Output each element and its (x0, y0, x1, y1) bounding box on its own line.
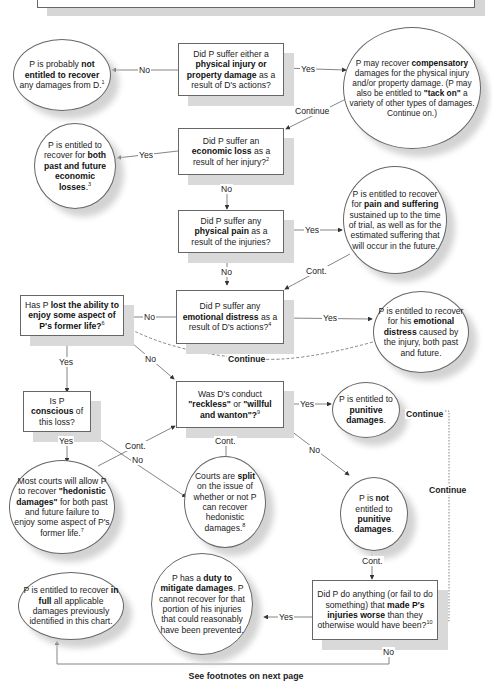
edge-label-q5-no: No (144, 354, 157, 364)
edge-label-q7-no: No (308, 445, 321, 455)
edge-label-q4-yes: Yes (322, 313, 338, 323)
edge-label-split-cont: Cont. (214, 436, 237, 446)
outcome-emotional-distress: P is entitled to recover for his emotion… (373, 291, 469, 373)
edge-label-q7-yes: Yes (299, 399, 315, 409)
edge-label-q8-no: No (382, 647, 395, 657)
edge-label-punitive-continue-side: Continue (428, 485, 467, 495)
question-economic-loss: Did P suffer an economic loss as a resul… (178, 128, 284, 175)
question-conscious: Is P conscious of this loss? (23, 391, 91, 432)
edge-label-q6-no: No (131, 455, 144, 465)
question-reckless-conduct: Was D's conduct "reckless" or "willful a… (176, 381, 284, 428)
edge-label-q6-yes: Yes (58, 436, 74, 446)
outcome-not-entitled: P is probably not entitled to recover an… (13, 39, 111, 111)
question-physical-injury: Did P suffer either a physical injury or… (178, 43, 284, 96)
edge-label-punitive-continue: Continue (405, 409, 444, 419)
edge-label-q8-yes: Yes (278, 612, 294, 622)
edge-label-emotional-continue: Continue (227, 354, 266, 364)
edge-label-q3-yes: Yes (304, 225, 320, 235)
question-made-injuries-worse: Did P do anything (or fail to do somethi… (312, 580, 438, 640)
edge-label-punitive-no-cont: Cont. (361, 556, 384, 566)
outcome-pain-suffering: P is entitled to recover for pain and su… (343, 166, 447, 274)
edge-label-pain-cont: Cont. (305, 266, 328, 276)
outcome-punitive-damages: P is entitled to punitive damages. (332, 382, 400, 438)
question-lost-enjoyment: Has P lost the ability to enjoy some asp… (20, 295, 124, 336)
edge-label-q4-no: No (143, 312, 156, 322)
question-physical-pain: Did P suffer any physical pain as a resu… (178, 210, 284, 253)
outcome-courts-split: Courts are split on the issue of whether… (184, 456, 266, 548)
outcome-economic-losses: P is entitled to recover for both past a… (34, 123, 116, 209)
edge-label-q2-yes: Yes (138, 150, 154, 160)
edge-label-comp-continue: Continue (294, 106, 330, 116)
outcome-hedonistic-damages: Most courts will allow P to recover "hed… (9, 460, 115, 554)
edge-label-q1-no: No (138, 65, 151, 75)
edge-label-q5-yes: Yes (58, 357, 74, 367)
edge-label-q3-no: No (220, 267, 233, 277)
edge-label-hedonistic-cont: Cont. (124, 441, 147, 451)
edge-label-q2-no: No (220, 184, 233, 194)
outcome-mitigate-damages: P has a duty to mitigate damages. P cann… (151, 553, 253, 655)
outcome-no-punitive-damages: P is not entitled to punitive damages. (340, 477, 408, 551)
question-emotional-distress: Did P suffer any emotional distress as a… (176, 290, 284, 344)
footnote-reference: See footnotes on next page (0, 671, 492, 682)
edge-label-q1-yes: Yes (300, 64, 316, 74)
outcome-recover-in-full: P is entitled to recover in full all app… (18, 572, 124, 640)
outcome-compensatory: P may recover compensatory damages for t… (343, 27, 481, 149)
